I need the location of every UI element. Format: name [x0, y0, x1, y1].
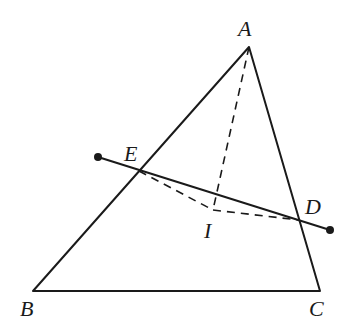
geometry-diagram: A B C E D I	[0, 0, 353, 330]
label-b: B	[20, 298, 33, 320]
label-e: E	[124, 143, 137, 165]
endpoint-dot-left	[94, 153, 102, 161]
label-d: D	[305, 196, 321, 218]
endpoint-dot-right	[326, 226, 334, 234]
triangle-figure	[0, 0, 353, 330]
label-a: A	[238, 18, 251, 40]
label-c: C	[309, 298, 324, 320]
segment-id	[213, 210, 299, 220]
line-ed	[98, 157, 330, 230]
label-i: I	[204, 220, 211, 242]
segment-ai	[213, 47, 249, 210]
triangle-abc	[33, 47, 320, 291]
